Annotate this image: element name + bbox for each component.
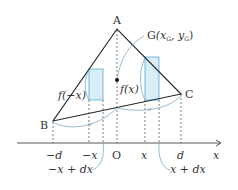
axis-name: x bbox=[213, 149, 220, 162]
f-minus-x-label: f(−x) bbox=[57, 89, 86, 102]
centroid-label: G(xG, yG) bbox=[147, 29, 193, 42]
tick-x: x bbox=[141, 149, 148, 162]
left-dx-label: −x + dx bbox=[48, 163, 94, 176]
right-dx-label: x + dx bbox=[170, 163, 206, 176]
left-distance-arc bbox=[53, 108, 117, 127]
vertex-b-label: B bbox=[40, 119, 48, 132]
tick-d: d bbox=[177, 149, 184, 162]
right-strip bbox=[145, 57, 159, 100]
tick-origin: O bbox=[112, 149, 121, 162]
right-height-brace bbox=[141, 58, 146, 100]
tick-minus-x: −x bbox=[82, 149, 98, 162]
centroid-diagram: A B C G(xG, yG) f(−x) f(x) −d −x O x d x… bbox=[0, 0, 238, 190]
vertex-a-label: A bbox=[112, 14, 122, 27]
right-dx-leader bbox=[159, 143, 170, 170]
right-equal-mark: 〃 bbox=[146, 106, 153, 114]
centroid-point bbox=[115, 78, 119, 82]
dashed-guides bbox=[53, 30, 181, 143]
vertex-c-label: C bbox=[185, 88, 193, 101]
left-strip bbox=[89, 69, 103, 100]
left-equal-mark: 〃 bbox=[86, 121, 93, 129]
tick-minus-d: −d bbox=[46, 149, 62, 162]
f-x-label: f(x) bbox=[119, 83, 139, 96]
